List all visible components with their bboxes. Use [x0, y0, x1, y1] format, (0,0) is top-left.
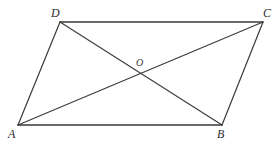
- side-BC: [222, 22, 263, 125]
- vertex-label-a: A: [8, 128, 15, 140]
- vertex-label-c: C: [263, 7, 271, 19]
- parallelogram-diagram: [0, 0, 279, 147]
- intersection-label-o: O: [136, 58, 143, 68]
- vertex-label-d: D: [51, 7, 60, 19]
- parallelogram-diagonals: [18, 22, 263, 125]
- vertex-label-b: B: [217, 128, 224, 140]
- geometry-figure: D C A B O: [0, 0, 279, 147]
- diagonal-DB: [60, 22, 222, 125]
